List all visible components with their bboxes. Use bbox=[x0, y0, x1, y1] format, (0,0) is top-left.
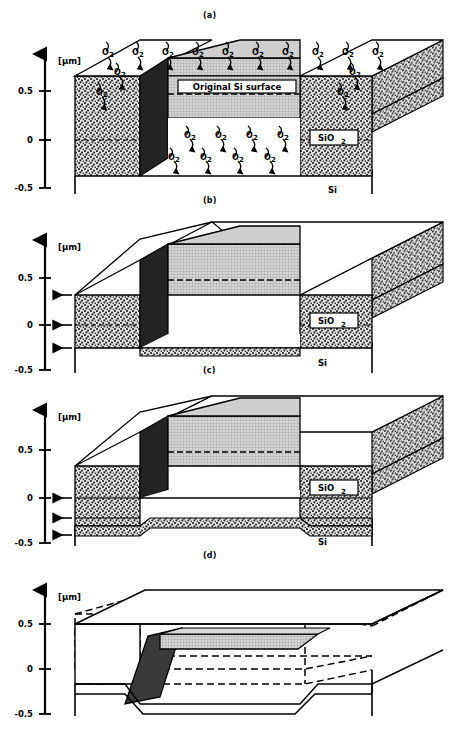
svg-text:O: O bbox=[312, 48, 319, 57]
svg-text:O: O bbox=[282, 48, 289, 57]
svg-text:2: 2 bbox=[169, 51, 174, 59]
axis-tick-0: 0.5 bbox=[18, 445, 33, 455]
svg-text:O: O bbox=[200, 153, 207, 162]
svg-text:2: 2 bbox=[222, 134, 227, 142]
panel-c-boundary-arrows bbox=[54, 498, 72, 535]
svg-text:2: 2 bbox=[121, 71, 126, 79]
axis-tick-0: 0.5 bbox=[18, 273, 33, 283]
sio2-subscript: 2 bbox=[341, 488, 346, 496]
svg-text:O: O bbox=[222, 48, 229, 57]
svg-text:2: 2 bbox=[229, 51, 234, 59]
panel-b-boundary-arrows bbox=[54, 295, 72, 348]
sio2-label-c: SiO 2 bbox=[310, 480, 358, 496]
axis-tick-1: 0 bbox=[27, 135, 33, 145]
sio2-label-a: SiO 2 bbox=[310, 130, 358, 146]
axis-tick-2: -0.5 bbox=[14, 183, 33, 193]
svg-text:O: O bbox=[372, 48, 379, 57]
svg-text:2: 2 bbox=[289, 51, 294, 59]
axis-unit-label: [µm] bbox=[58, 412, 81, 422]
svg-text:O: O bbox=[96, 88, 103, 97]
axis-tick-1: 0 bbox=[27, 320, 33, 330]
svg-text:2: 2 bbox=[191, 134, 196, 142]
panel-a-diagram: 0.5 0 -0.5 [µm] bbox=[0, 18, 453, 198]
svg-text:2: 2 bbox=[379, 51, 384, 59]
si-label-b: Si bbox=[318, 358, 327, 368]
svg-text:2: 2 bbox=[103, 91, 108, 99]
axis-unit-label: [µm] bbox=[58, 242, 81, 252]
axis-tick-1: 0 bbox=[27, 493, 33, 503]
panel-b-diagram: 0.5 0 -0.5 [µm] bbox=[0, 208, 453, 380]
svg-text:2: 2 bbox=[271, 156, 276, 164]
svg-text:O: O bbox=[337, 88, 344, 97]
sio2-text: SiO bbox=[318, 133, 334, 143]
axis-tick-0: 0.5 bbox=[18, 86, 33, 96]
sio2-text: SiO bbox=[318, 483, 334, 493]
svg-text:2: 2 bbox=[139, 51, 144, 59]
si-label-a: Si bbox=[328, 185, 337, 195]
svg-text:O: O bbox=[252, 48, 259, 57]
panel-d-diagram: 0.5 0 -0.5 [µm] bbox=[0, 564, 453, 733]
axis-unit-label: [µm] bbox=[58, 56, 81, 66]
panel-label-b: (b) bbox=[203, 196, 217, 205]
svg-text:2: 2 bbox=[259, 51, 264, 59]
original-si-surface-label: Original Si surface bbox=[193, 82, 282, 92]
svg-text:O: O bbox=[102, 48, 109, 57]
panel-b-y-axis: 0.5 0 -0.5 [µm] bbox=[14, 240, 81, 375]
svg-text:2: 2 bbox=[344, 91, 349, 99]
svg-text:O: O bbox=[264, 153, 271, 162]
svg-text:O: O bbox=[192, 48, 199, 57]
axis-tick-2: -0.5 bbox=[14, 709, 33, 719]
panel-label-c: (c) bbox=[203, 366, 216, 375]
svg-text:O: O bbox=[342, 48, 349, 57]
svg-text:2: 2 bbox=[319, 51, 324, 59]
panel-a-y-axis: 0.5 0 -0.5 [µm] bbox=[14, 54, 81, 193]
axis-tick-2: -0.5 bbox=[14, 365, 33, 375]
svg-text:2: 2 bbox=[284, 134, 289, 142]
svg-text:O: O bbox=[277, 131, 284, 140]
svg-text:2: 2 bbox=[356, 71, 361, 79]
axis-tick-2: -0.5 bbox=[14, 538, 33, 548]
svg-text:O: O bbox=[114, 68, 121, 77]
sio2-subscript: 2 bbox=[341, 138, 346, 146]
svg-text:2: 2 bbox=[109, 51, 114, 59]
svg-text:2: 2 bbox=[239, 156, 244, 164]
panel-c-diagram: 0.5 0 -0.5 [µm] bbox=[0, 378, 453, 553]
panel-c-y-axis: 0.5 0 -0.5 [µm] bbox=[14, 410, 81, 548]
svg-text:2: 2 bbox=[175, 156, 180, 164]
svg-text:O: O bbox=[184, 131, 191, 140]
svg-text:O: O bbox=[232, 153, 239, 162]
svg-text:O: O bbox=[349, 68, 356, 77]
panel-d-y-axis: 0.5 0 -0.5 [µm] bbox=[14, 590, 81, 719]
svg-text:O: O bbox=[246, 131, 253, 140]
axis-tick-1: 0 bbox=[27, 664, 33, 674]
figure-oxidation-stages: (a) bbox=[0, 0, 453, 733]
svg-text:2: 2 bbox=[199, 51, 204, 59]
svg-text:O: O bbox=[168, 153, 175, 162]
sio2-subscript: 2 bbox=[341, 321, 346, 329]
svg-text:O: O bbox=[215, 131, 222, 140]
original-si-surface-annotation: Original Si surface bbox=[178, 80, 296, 93]
si-label-c: Si bbox=[318, 537, 327, 547]
sio2-label-b: SiO 2 bbox=[310, 313, 358, 329]
svg-text:2: 2 bbox=[349, 51, 354, 59]
thin-oxide-slab-top bbox=[160, 634, 318, 649]
panel-label-d: (d) bbox=[203, 551, 217, 560]
svg-text:2: 2 bbox=[207, 156, 212, 164]
svg-text:2: 2 bbox=[253, 134, 258, 142]
axis-unit-label: [µm] bbox=[58, 592, 81, 602]
svg-text:O: O bbox=[162, 48, 169, 57]
sio2-text: SiO bbox=[318, 316, 334, 326]
svg-text:O: O bbox=[132, 48, 139, 57]
axis-tick-0: 0.5 bbox=[18, 619, 33, 629]
